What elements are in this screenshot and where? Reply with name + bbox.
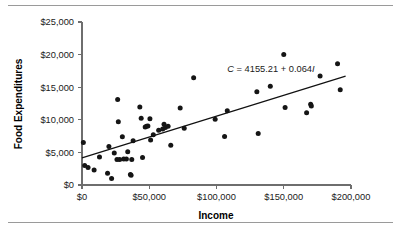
data-point (281, 52, 286, 57)
data-point (191, 75, 196, 80)
y-tick-label: $0 (64, 180, 74, 190)
figure-container: $0$5,000$10,000$15,000$20,000$25,000 $0$… (0, 0, 401, 230)
data-point (178, 106, 183, 111)
equation-variable-i: I (312, 64, 315, 74)
data-point (268, 84, 273, 89)
data-point (335, 61, 340, 66)
data-point (105, 171, 110, 176)
scatter-plot: $0$5,000$10,000$15,000$20,000$25,000 $0$… (0, 0, 401, 230)
data-point (109, 176, 114, 181)
data-point (338, 87, 343, 92)
data-point (125, 149, 130, 154)
x-axis-ticks: $0$50,000$100,000$150,000$200,000 (77, 185, 371, 202)
y-axis-title: Food Expenditures (13, 58, 24, 149)
data-point (137, 105, 142, 110)
data-point (222, 134, 227, 139)
data-point (304, 110, 309, 115)
y-tick-label: $15,000 (40, 83, 74, 93)
data-point (120, 134, 125, 139)
data-point (129, 173, 134, 178)
data-point (97, 154, 102, 159)
data-point (318, 74, 323, 79)
data-point (145, 123, 150, 128)
data-point (86, 165, 91, 170)
data-point (115, 97, 120, 102)
data-point (309, 104, 314, 109)
data-point (283, 105, 288, 110)
data-point (124, 156, 129, 161)
data-point (106, 144, 111, 149)
data-point (116, 119, 121, 124)
y-tick-label: $5,000 (46, 148, 74, 158)
x-tick-label: $0 (77, 192, 87, 202)
regression-trendline (82, 76, 346, 158)
x-tick-label: $100,000 (197, 192, 236, 202)
data-point (92, 168, 97, 173)
x-tick-label: $50,000 (132, 192, 166, 202)
x-tick-label: $200,000 (332, 192, 371, 202)
data-point (166, 124, 171, 129)
data-point (129, 157, 134, 162)
y-tick-label: $20,000 (40, 50, 74, 60)
x-tick-label: $150,000 (264, 192, 303, 202)
y-tick-label: $25,000 (40, 17, 74, 27)
data-point (139, 116, 144, 121)
x-axis-title: Income (198, 210, 233, 221)
y-axis-ticks: $0$5,000$10,000$15,000$20,000$25,000 (40, 17, 82, 190)
data-point (81, 140, 86, 145)
data-point (256, 131, 261, 136)
regression-equation-label: C = 4155.21 + 0.064I (227, 64, 315, 74)
y-tick-label: $10,000 (40, 115, 74, 125)
data-point (168, 143, 173, 148)
data-point (112, 151, 117, 156)
data-point (254, 89, 259, 94)
data-point (140, 155, 145, 160)
data-point (147, 116, 152, 121)
equation-body: = 4155.21 + 0.064 (234, 64, 312, 74)
data-point (148, 138, 153, 143)
